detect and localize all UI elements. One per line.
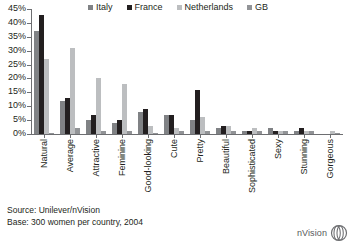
bar-gb-beautiful bbox=[231, 131, 235, 134]
bar-italy-feminine bbox=[112, 123, 116, 134]
x-tick-label: Stunning bbox=[300, 139, 309, 175]
bar-gb-gorgeous bbox=[335, 133, 339, 134]
base-text: Base: 300 women per country, 2004 bbox=[7, 216, 143, 228]
y-tick-mark bbox=[27, 120, 31, 121]
bar-italy-natural bbox=[34, 31, 38, 134]
bar-group bbox=[265, 9, 291, 134]
bar-italy-cute bbox=[164, 115, 168, 134]
x-tick-label: Beautiful bbox=[222, 139, 231, 174]
x-tick-label: Gorgeous bbox=[326, 139, 335, 179]
x-label-cell: Sophisticated bbox=[239, 137, 265, 207]
bar-gb-cute bbox=[179, 131, 183, 134]
bar-gb-average bbox=[75, 128, 79, 134]
x-label-cell: Feminine bbox=[109, 137, 135, 207]
y-tick-mark bbox=[27, 134, 31, 135]
y-tick-label: 35% bbox=[8, 32, 26, 41]
x-tick-label: Attractive bbox=[92, 139, 101, 177]
bar-gb-feminine bbox=[127, 131, 131, 134]
x-label-cell: Good-looking bbox=[135, 137, 161, 207]
bar-gb-natural bbox=[49, 133, 53, 134]
x-tick-label: Average bbox=[66, 139, 75, 172]
x-label-cell: Natural bbox=[31, 137, 57, 207]
bar-chart: ItalyFranceNetherlandsGB 0%5%10%15%20%25… bbox=[0, 0, 354, 248]
y-tick-mark bbox=[27, 23, 31, 24]
bar-gb-stunning bbox=[309, 131, 313, 134]
y-tick-mark bbox=[27, 106, 31, 107]
x-tick-label: Pretty bbox=[196, 139, 205, 163]
bar-italy-average bbox=[60, 101, 64, 134]
x-label-cell: Average bbox=[57, 137, 83, 207]
x-label-cell: Gorgeous bbox=[317, 137, 343, 207]
bar-gb-pretty bbox=[205, 131, 209, 134]
source-text: Source: Unilever/nVision bbox=[7, 204, 143, 216]
x-label-cell: Sexy bbox=[265, 137, 291, 207]
bar-groups bbox=[31, 9, 343, 134]
x-tick-label: Cute bbox=[170, 139, 179, 158]
x-label-cell: Stunning bbox=[291, 137, 317, 207]
x-tick-label: Feminine bbox=[118, 139, 127, 176]
y-tick-mark bbox=[27, 92, 31, 93]
bar-italy-sexy bbox=[268, 128, 272, 134]
x-label-cell: Cute bbox=[161, 137, 187, 207]
y-tick-label: 5% bbox=[13, 115, 26, 124]
bar-italy-beautiful bbox=[216, 128, 220, 134]
bar-gb-sexy bbox=[283, 131, 287, 134]
y-tick-label: 10% bbox=[8, 101, 26, 110]
x-tick-label: Sexy bbox=[274, 139, 283, 159]
bar-italy-pretty bbox=[190, 120, 194, 134]
bar-gb-attractive bbox=[101, 131, 105, 134]
y-tick-mark bbox=[27, 37, 31, 38]
bar-gb-good-looking bbox=[153, 133, 157, 134]
y-tick-label: 25% bbox=[8, 60, 26, 69]
x-label-cell: Pretty bbox=[187, 137, 213, 207]
x-axis-line bbox=[31, 134, 343, 135]
chart-footer: Source: Unilever/nVision Base: 300 women… bbox=[7, 204, 143, 228]
bar-group bbox=[161, 9, 187, 134]
y-tick-mark bbox=[27, 78, 31, 79]
x-axis-labels: NaturalAverageAttractiveFeminineGood-loo… bbox=[31, 137, 343, 207]
y-tick-label: 30% bbox=[8, 46, 26, 55]
y-tick-mark bbox=[27, 65, 31, 66]
plot-area bbox=[31, 9, 343, 134]
y-tick-mark bbox=[27, 9, 31, 10]
x-tick-label: Natural bbox=[40, 139, 49, 168]
y-tick-mark bbox=[27, 51, 31, 52]
y-tick-label: 40% bbox=[8, 18, 26, 27]
y-tick-label: 15% bbox=[8, 87, 26, 96]
x-label-cell: Beautiful bbox=[213, 137, 239, 207]
bar-italy-attractive bbox=[86, 120, 90, 134]
y-tick-label: 0% bbox=[13, 129, 26, 138]
bar-gb-sophisticated bbox=[257, 131, 261, 134]
y-axis-labels: 0%5%10%15%20%25%30%35%40%45% bbox=[0, 0, 26, 144]
brand-name: nVision bbox=[297, 228, 327, 238]
y-tick-label: 20% bbox=[8, 73, 26, 82]
x-tick-label: Good-looking bbox=[144, 139, 153, 193]
brand-logo: nVision bbox=[297, 224, 348, 242]
x-label-cell: Attractive bbox=[83, 137, 109, 207]
y-tick-label: 45% bbox=[8, 4, 26, 13]
x-tick-label: Sophisticated bbox=[248, 139, 257, 193]
bar-italy-good-looking bbox=[138, 112, 142, 134]
bar-italy-sophisticated bbox=[242, 131, 246, 134]
bar-italy-stunning bbox=[294, 131, 298, 134]
nvision-logo-icon bbox=[330, 224, 348, 242]
